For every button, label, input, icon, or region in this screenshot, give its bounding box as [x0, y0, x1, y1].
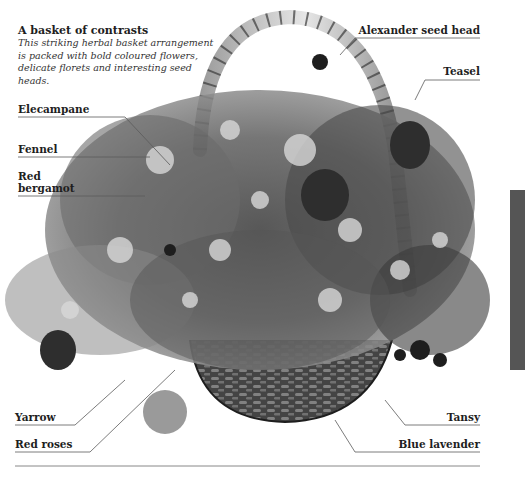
- label-fennel: Fennel: [18, 143, 58, 156]
- leader-teasel: [415, 80, 480, 100]
- label-blue-lavender: Blue lavender: [398, 438, 480, 451]
- caption-block: A basket of contrasts This striking herb…: [18, 24, 218, 87]
- label-tansy: Tansy: [447, 411, 480, 424]
- caption-body: This striking herbal basket arrangement …: [18, 37, 218, 87]
- caption-title: A basket of contrasts: [18, 24, 218, 37]
- label-red-roses: Red roses: [15, 438, 72, 451]
- label-alexander-seed-head: Alexander seed head: [359, 24, 480, 37]
- label-yarrow: Yarrow: [15, 411, 56, 424]
- label-teasel: Teasel: [443, 65, 480, 78]
- label-elecampane: Elecampane: [18, 103, 89, 116]
- label-red-bergamot-line2: bergamot: [18, 182, 75, 195]
